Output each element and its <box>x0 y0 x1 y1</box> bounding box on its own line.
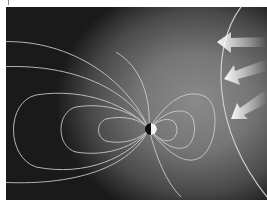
magnetic-field-lines <box>6 42 215 197</box>
corner-mark <box>8 0 9 5</box>
field-lines-graphic <box>6 7 267 200</box>
magnetosphere-illustration <box>6 7 267 200</box>
solar-wind-arrows <box>217 32 267 119</box>
earth <box>145 123 157 135</box>
